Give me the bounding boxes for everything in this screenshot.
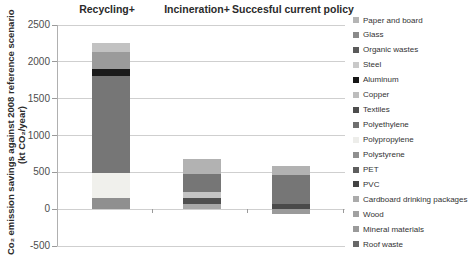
y-tick-label-0: 0: [16, 204, 50, 214]
legend-item-steel: Steel: [353, 59, 381, 71]
legend-label: PET: [363, 165, 379, 174]
legend-item-glass: Glass: [353, 29, 383, 41]
bar-segment-mineral-materials: [272, 209, 310, 214]
legend-label: Polystyrene: [363, 150, 405, 159]
bar-segment-glass: [92, 52, 130, 69]
legend-item-cardboard-drinking-packages: Cardboard drinking packages: [353, 193, 468, 205]
y-tick-label-2000: 2000: [16, 57, 50, 67]
bar-segment-pvc: [272, 204, 310, 209]
legend-label: Copper: [363, 90, 389, 99]
category-label-2: Succesful current policy: [232, 3, 352, 15]
legend-item-polypropylene: Polypropylene: [353, 134, 414, 146]
stacked-bar-chart: Co₂ emission savings against 2008 refere…: [0, 0, 473, 265]
y-tick-label--500: -500: [16, 241, 50, 251]
legend-swatch-icon: [353, 152, 359, 158]
bar-segment-cardboard-drinking-packages: [183, 192, 221, 198]
legend-label: Organic wastes: [363, 45, 418, 54]
legend-label: Cardboard drinking packages: [363, 195, 468, 204]
legend-label: Roof waste: [363, 240, 403, 249]
legend-item-roof-waste: Roof waste: [353, 238, 403, 250]
bar-segment-organic-wastes: [272, 175, 310, 204]
y-tick-label-1500: 1500: [16, 94, 50, 104]
legend-item-copper: Copper: [353, 89, 389, 101]
bar-segment-paper-and-board: [272, 166, 310, 175]
legend-label: Aluminum: [363, 75, 399, 84]
bar-segment-wood: [183, 204, 221, 209]
legend-label: Paper and board: [363, 16, 423, 25]
legend-label: Glass: [363, 30, 383, 39]
legend-swatch-icon: [353, 92, 359, 98]
legend-swatch-icon: [353, 107, 359, 113]
y-axis-line: [57, 25, 58, 246]
legend-label: Polyethylene: [363, 120, 409, 129]
legend-label: Polypropylene: [363, 135, 414, 144]
y-tick-label-500: 500: [16, 167, 50, 177]
legend-item-pet: PET: [353, 164, 379, 176]
x-axis-tick-1: [247, 209, 248, 213]
legend-swatch-icon: [353, 241, 359, 247]
legend-item-organic-wastes: Organic wastes: [353, 44, 418, 56]
bar-segment-polystyrene: [92, 198, 130, 209]
legend-item-wood: Wood: [353, 208, 384, 220]
legend-label: Wood: [363, 210, 384, 219]
legend-swatch-icon: [353, 122, 359, 128]
x-axis-tick-0: [152, 209, 153, 213]
x-axis-tick-2: [343, 209, 344, 213]
y-tick-label-2500: 2500: [16, 20, 50, 30]
legend-item-paper-and-board: Paper and board: [353, 14, 423, 26]
legend-item-textiles: Textiles: [353, 104, 390, 116]
y-axis-title-line1: Co₂ emission savings against 2008 refere…: [5, 15, 16, 255]
legend-label: Steel: [363, 60, 381, 69]
legend-label: Mineral materials: [363, 225, 424, 234]
bar-segment-aluminum: [92, 69, 130, 76]
bar-segment-textiles: [92, 76, 130, 173]
legend-swatch-icon: [353, 226, 359, 232]
bar-segment-paper-and-board: [183, 159, 221, 174]
legend-label: Textiles: [363, 105, 390, 114]
gridline--500: [57, 246, 345, 247]
legend-item-pvc: PVC: [353, 178, 379, 190]
bar-segment-pvc: [183, 198, 221, 204]
legend-swatch-icon: [353, 17, 359, 23]
legend-swatch-icon: [353, 137, 359, 143]
legend-swatch-icon: [353, 196, 359, 202]
y-tick-label-1000: 1000: [16, 131, 50, 141]
legend-swatch-icon: [353, 211, 359, 217]
legend-item-polyethylene: Polyethylene: [353, 119, 409, 131]
legend-swatch-icon: [353, 62, 359, 68]
legend-label: PVC: [363, 180, 379, 189]
legend-swatch-icon: [353, 77, 359, 83]
legend-swatch-icon: [353, 32, 359, 38]
bar-segment-polypropylene: [92, 173, 130, 198]
legend-item-mineral-materials: Mineral materials: [353, 223, 424, 235]
gridline-2500: [57, 25, 345, 26]
legend-item-polystyrene: Polystyrene: [353, 149, 405, 161]
legend-swatch-icon: [353, 181, 359, 187]
legend-item-aluminum: Aluminum: [353, 74, 399, 86]
bar-segment-organic-wastes: [183, 174, 221, 192]
legend-swatch-icon: [353, 167, 359, 173]
bar-segment-paper-and-board: [92, 43, 130, 53]
legend-swatch-icon: [353, 47, 359, 53]
